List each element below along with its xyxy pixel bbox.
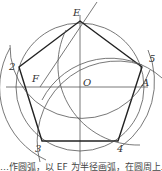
label-2: 2 bbox=[9, 62, 15, 72]
arc-from-5 bbox=[58, 30, 140, 145]
label-o: O bbox=[83, 78, 91, 88]
label-a: A bbox=[142, 78, 149, 88]
diagram-drawing bbox=[0, 0, 162, 171]
label-f: F bbox=[32, 74, 39, 84]
label-4: 4 bbox=[117, 144, 123, 154]
pentagon-construction-diagram: E 2 5 F O A 3 4 …作圆弧，以 EF 为半径画弧，在圆周上… bbox=[0, 0, 162, 171]
label-e: E bbox=[73, 8, 80, 18]
figure-caption: …作圆弧，以 EF 为半径画弧，在圆周上… bbox=[0, 160, 162, 171]
label-3: 3 bbox=[35, 144, 41, 154]
label-5: 5 bbox=[149, 54, 155, 64]
